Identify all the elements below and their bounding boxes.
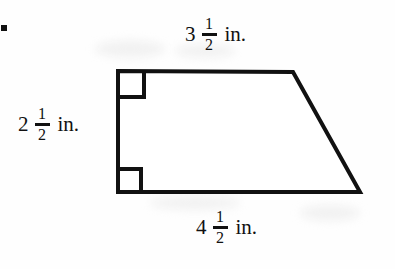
unit-label: in. bbox=[50, 114, 80, 135]
mixed-number-whole: 3 bbox=[185, 24, 202, 45]
unit-label: in. bbox=[228, 217, 258, 238]
figure-page: 3 1 2 in. 2 1 2 in. 4 1 2 in. bbox=[0, 0, 395, 269]
dimension-label-top-base: 3 1 2 in. bbox=[185, 16, 246, 54]
fraction: 1 2 bbox=[35, 106, 50, 144]
fraction-numerator: 1 bbox=[214, 209, 226, 226]
fraction: 1 2 bbox=[213, 209, 228, 247]
fraction-denominator: 2 bbox=[214, 229, 226, 246]
unit-label: in. bbox=[217, 24, 247, 45]
fraction-numerator: 1 bbox=[203, 16, 215, 33]
fraction-denominator: 2 bbox=[36, 126, 48, 143]
fraction: 1 2 bbox=[202, 16, 217, 54]
fraction-denominator: 2 bbox=[203, 36, 215, 53]
dimension-label-bottom-base: 4 1 2 in. bbox=[196, 209, 257, 247]
mixed-number-whole: 2 bbox=[18, 114, 35, 135]
fraction-numerator: 1 bbox=[36, 106, 48, 123]
mixed-number-whole: 4 bbox=[196, 217, 213, 238]
trapezoid-outline bbox=[118, 71, 360, 192]
dimension-label-left-height: 2 1 2 in. bbox=[18, 106, 79, 144]
